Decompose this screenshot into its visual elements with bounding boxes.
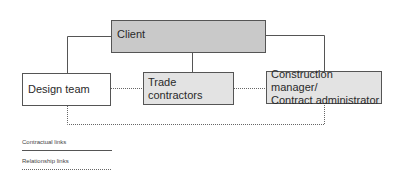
design-team-node: Design team	[22, 73, 111, 106]
design-team-label: Design team	[28, 83, 90, 96]
construction-manager-label-line2: Contract administrator	[271, 94, 379, 107]
client-label: Client	[117, 28, 145, 41]
trade-contractors-label: Trade contractors	[148, 76, 233, 102]
construction-manager-label-line1: Construction manager/	[271, 68, 381, 94]
legend-contractual-label: Contractual links	[22, 139, 66, 145]
client-node: Client	[111, 20, 266, 53]
contractual-link-client-cm	[266, 36, 325, 72]
legend-relationship-label: Relationship links	[22, 158, 69, 164]
trade-contractors-node: Trade contractors	[143, 72, 234, 105]
relationship-link-design-cm	[68, 104, 325, 125]
construction-manager-node: Construction manager/ Contract administr…	[266, 71, 382, 104]
contractual-link-client-design	[68, 37, 112, 74]
procurement-diagram: Client Design team Trade contractors Con…	[0, 0, 403, 180]
